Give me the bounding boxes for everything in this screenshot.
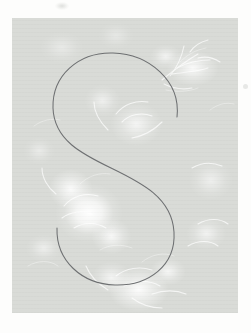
print-speck-secondary-icon — [243, 84, 248, 89]
monogram-letter-s — [12, 18, 238, 313]
page-canvas — [0, 0, 251, 333]
floral-monogram-artwork — [12, 18, 238, 313]
monogram-stroke-path — [53, 53, 177, 285]
print-speck-icon — [55, 2, 69, 10]
